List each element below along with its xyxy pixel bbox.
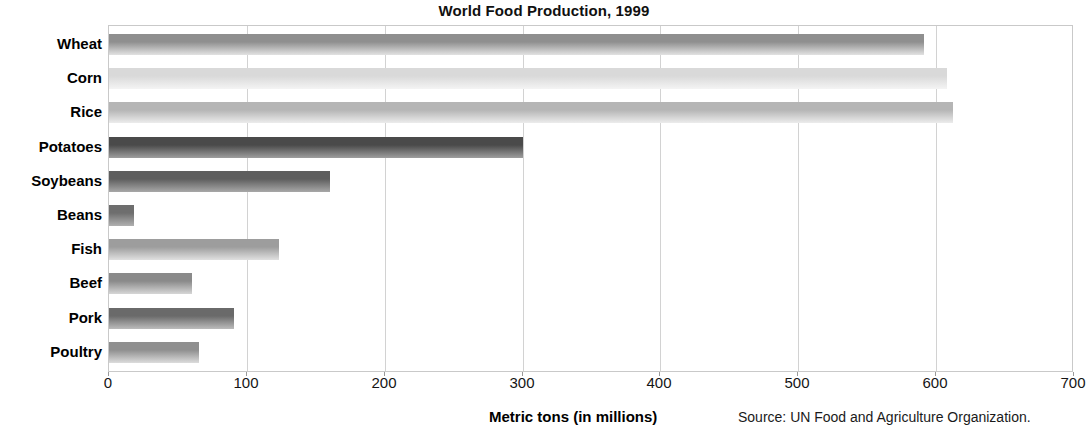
x-tick-label-500: 500: [767, 374, 827, 391]
bar-beef: [109, 273, 192, 294]
category-label-rice: Rice: [0, 104, 102, 120]
x-tick-label-0: 0: [78, 374, 138, 391]
x-tick-label-600: 600: [905, 374, 965, 391]
chart-title: World Food Production, 1999: [0, 2, 1088, 19]
x-tick-label-700: 700: [1043, 374, 1088, 391]
source-note: Source: UN Food and Agriculture Organiza…: [738, 409, 1031, 425]
category-label-soybeans: Soybeans: [0, 173, 102, 189]
category-label-wheat: Wheat: [0, 36, 102, 52]
bar-fish: [109, 239, 279, 260]
x-axis-title: Metric tons (in millions): [489, 408, 657, 425]
category-label-poultry: Poultry: [0, 344, 102, 360]
bar-beans: [109, 205, 134, 226]
bar-poultry: [109, 342, 199, 363]
x-axis-tick-labels: 0100200300400500600700: [0, 374, 1088, 396]
category-label-beans: Beans: [0, 207, 102, 223]
x-tick-label-100: 100: [216, 374, 276, 391]
plot-area: [108, 25, 1073, 372]
bar-rice: [109, 102, 953, 123]
bar-soybeans: [109, 171, 330, 192]
category-label-pork: Pork: [0, 310, 102, 326]
x-tick-label-200: 200: [354, 374, 414, 391]
x-tick-label-400: 400: [629, 374, 689, 391]
bar-corn: [109, 68, 947, 89]
bar-potatoes: [109, 137, 523, 158]
category-label-fish: Fish: [0, 241, 102, 257]
bar-wheat: [109, 34, 924, 55]
x-tick-label-300: 300: [492, 374, 552, 391]
y-axis-category-labels: WheatCornRicePotatoesSoybeansBeansFishBe…: [0, 25, 102, 372]
category-label-beef: Beef: [0, 275, 102, 291]
category-label-corn: Corn: [0, 70, 102, 86]
bar-pork: [109, 308, 234, 329]
category-label-potatoes: Potatoes: [0, 139, 102, 155]
